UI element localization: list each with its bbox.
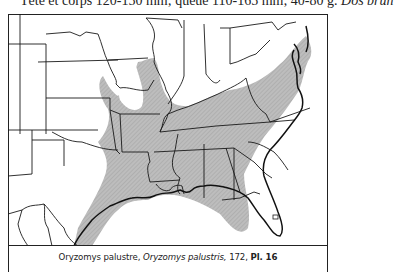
range-map bbox=[8, 14, 328, 246]
range-area bbox=[74, 36, 311, 246]
header-text: Tête et corps 120-150 mm; queue 110-165 … bbox=[20, 0, 340, 9]
caption-page: 172, bbox=[229, 252, 248, 262]
caption-plate: Pl. 16 bbox=[251, 252, 278, 262]
header-text-italic: Dos brun bbox=[341, 0, 394, 8]
header-text-lead: Tête et corps 120-150 mm; queue 110-165 … bbox=[20, 0, 338, 8]
caption-divider bbox=[8, 245, 328, 246]
caption-common-name: Oryzomys palustre, bbox=[59, 252, 141, 262]
lake-okeechobee bbox=[273, 215, 278, 219]
map-caption: Oryzomys palustre, Oryzomys palustris, 1… bbox=[8, 252, 328, 262]
caption-scientific-name: Oryzomys palustris, bbox=[143, 252, 226, 262]
